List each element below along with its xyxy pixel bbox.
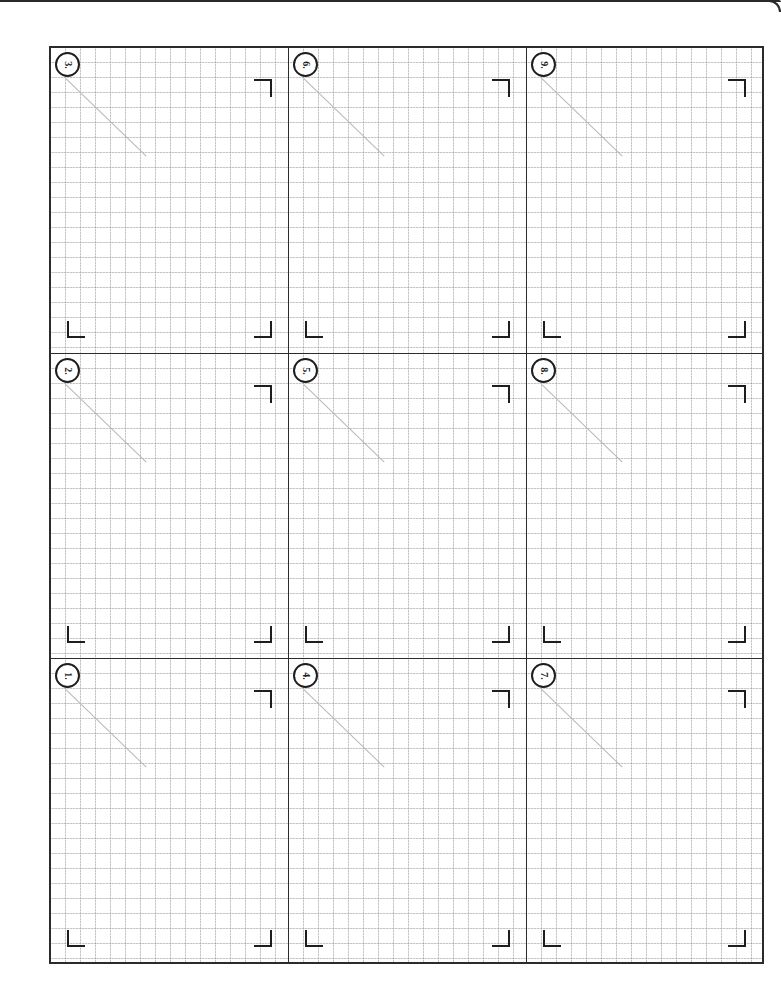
problem-number-badge: 7.	[531, 663, 556, 688]
problem-number: 4.	[301, 672, 311, 680]
problem-number: 5.	[301, 367, 311, 375]
corner-mark-bottom-right-icon	[254, 626, 272, 643]
problem-number-badge: 3.	[55, 52, 80, 77]
problem-cell-1: 1.	[51, 659, 289, 962]
problem-number-badge: 8.	[531, 358, 556, 383]
corner-mark-bottom-right-icon	[492, 930, 510, 947]
problem-number-badge: 6.	[293, 52, 318, 77]
corner-mark-bottom-right-icon	[492, 626, 510, 643]
problem-number-badge: 5.	[293, 358, 318, 383]
corner-mark-top-right-icon	[254, 385, 272, 403]
problem-number: 3.	[63, 61, 73, 69]
diagonal-guide-line	[303, 689, 384, 768]
problem-cell-3: 3.	[51, 48, 289, 354]
problem-cell-5: 5.	[289, 354, 527, 659]
corner-mark-bottom-left-icon	[67, 930, 85, 947]
problem-cell-4: 4.	[289, 659, 527, 962]
problem-cell-7: 7.	[527, 659, 762, 962]
corner-mark-bottom-left-icon	[543, 321, 561, 338]
corner-mark-bottom-right-icon	[728, 626, 746, 643]
corner-mark-bottom-left-icon	[67, 321, 85, 338]
corner-mark-bottom-right-icon	[728, 321, 746, 338]
problem-cell-8: 8.	[527, 354, 762, 659]
diagonal-guide-line	[65, 384, 146, 463]
corner-mark-top-right-icon	[254, 690, 272, 708]
corner-mark-top-right-icon	[492, 79, 510, 97]
problem-cell-6: 6.	[289, 48, 527, 354]
problem-number: 9.	[539, 61, 549, 69]
corner-mark-bottom-left-icon	[67, 626, 85, 643]
corner-mark-bottom-right-icon	[254, 930, 272, 947]
page-top-edge	[0, 0, 781, 2]
corner-mark-bottom-left-icon	[305, 930, 323, 947]
corner-mark-bottom-left-icon	[305, 626, 323, 643]
corner-mark-bottom-right-icon	[492, 321, 510, 338]
corner-mark-top-right-icon	[254, 79, 272, 97]
diagonal-guide-line	[541, 78, 622, 157]
diagonal-guide-line	[303, 384, 384, 463]
problem-number-badge: 2.	[55, 358, 80, 383]
corner-mark-top-right-icon	[492, 385, 510, 403]
corner-mark-bottom-right-icon	[254, 321, 272, 338]
corner-mark-bottom-right-icon	[728, 930, 746, 947]
problem-number-badge: 4.	[293, 663, 318, 688]
problem-number: 1.	[63, 672, 73, 680]
diagonal-guide-line	[541, 689, 622, 768]
problem-number: 2.	[63, 367, 73, 375]
problem-number-badge: 1.	[55, 663, 80, 688]
corner-mark-top-right-icon	[728, 79, 746, 97]
problem-number-badge: 9.	[531, 52, 556, 77]
corner-mark-top-right-icon	[728, 690, 746, 708]
diagonal-guide-line	[303, 78, 384, 157]
diagonal-guide-line	[65, 78, 146, 157]
corner-mark-bottom-left-icon	[543, 930, 561, 947]
problem-number: 7.	[539, 672, 549, 680]
problem-number: 6.	[301, 61, 311, 69]
diagonal-guide-line	[65, 689, 146, 768]
graph-paper-sheet: 3. 6. 9. 2. 5. 8.	[49, 46, 764, 964]
problem-cell-9: 9.	[527, 48, 762, 354]
diagonal-guide-line	[541, 384, 622, 463]
corner-mark-top-right-icon	[492, 690, 510, 708]
problem-number: 8.	[539, 367, 549, 375]
corner-mark-top-right-icon	[728, 385, 746, 403]
problem-cell-2: 2.	[51, 354, 289, 659]
corner-mark-bottom-left-icon	[543, 626, 561, 643]
corner-mark-bottom-left-icon	[305, 321, 323, 338]
